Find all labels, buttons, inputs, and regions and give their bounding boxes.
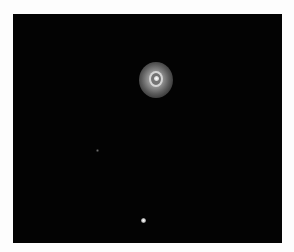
nebula-central-star <box>154 76 159 81</box>
faint-star <box>96 149 99 152</box>
bright-star <box>141 218 146 223</box>
image-frame <box>0 0 294 252</box>
night-sky-field <box>13 14 282 243</box>
